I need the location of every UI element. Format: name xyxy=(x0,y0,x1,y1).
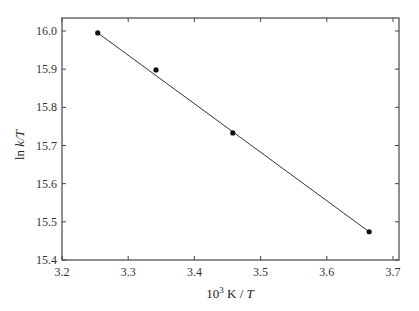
y-tick-labels: 15.415.515.615.715.815.916.0 xyxy=(36,24,57,267)
data-point xyxy=(367,229,372,234)
x-axis-label: 103 K / T xyxy=(206,285,254,301)
data-point xyxy=(230,130,235,135)
y-tick-label: 16.0 xyxy=(36,24,57,38)
axis-ticks xyxy=(62,18,399,260)
chart: 3.23.33.43.53.63.7 15.415.515.615.715.81… xyxy=(0,0,419,311)
y-tick-label: 15.4 xyxy=(36,253,57,267)
x-tick-label: 3.3 xyxy=(121,265,136,279)
y-axis-label: ln k/T xyxy=(12,129,27,160)
y-tick-label: 15.5 xyxy=(36,215,57,229)
y-tick-label: 15.9 xyxy=(36,62,57,76)
x-tick-label: 3.6 xyxy=(319,265,334,279)
y-tick-label: 15.6 xyxy=(36,177,57,191)
x-tick-label: 3.4 xyxy=(187,265,202,279)
plot-frame xyxy=(62,18,399,260)
data-point xyxy=(95,30,100,35)
x-tick-label: 3.2 xyxy=(55,265,70,279)
x-tick-labels: 3.23.33.43.53.63.7 xyxy=(55,265,401,279)
data-point xyxy=(153,67,158,72)
x-tick-label: 3.7 xyxy=(386,265,401,279)
y-tick-label: 15.7 xyxy=(36,139,57,153)
x-tick-label: 3.5 xyxy=(253,265,268,279)
y-tick-label: 15.8 xyxy=(36,100,57,114)
